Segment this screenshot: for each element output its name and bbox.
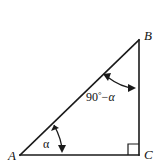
vertex-label-A: A (7, 148, 16, 163)
triangle-diagram: A B C α 90°−α (0, 0, 164, 163)
angle-arc-b-arrowhead-end (128, 84, 136, 92)
angle-arc-a-arrowhead-end (58, 145, 66, 153)
edge-hypotenuse-AB (20, 40, 139, 155)
angle-arc-b-arrowhead-start (103, 73, 111, 81)
angle-arc-a-arrowhead-start (51, 125, 59, 131)
angle-label-alpha-symbol: α (108, 90, 115, 104)
angle-label-ninety-minus-alpha: 90°−α (86, 90, 115, 104)
angle-label-alpha: α (43, 137, 50, 151)
geometry-figure: A B C α 90°−α (0, 0, 164, 163)
angle-label-value: 90 (86, 90, 98, 104)
vertex-label-C: C (144, 147, 153, 162)
vertex-label-B: B (144, 28, 152, 43)
right-angle-square-icon (128, 144, 139, 155)
